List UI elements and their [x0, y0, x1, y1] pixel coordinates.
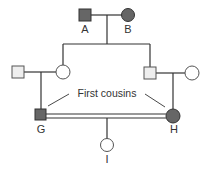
individual-right-spouse-female-icon [185, 66, 199, 80]
individual-g-affected-male-icon [35, 109, 46, 120]
label-h: H [170, 123, 178, 135]
individual-i-female-icon [101, 139, 114, 152]
individual-b-affected-female-icon [122, 9, 135, 22]
label-i: I [105, 153, 108, 165]
first-cousins-annotation: First cousins [78, 87, 137, 99]
label-a: A [81, 23, 89, 35]
annotation-pointer-g [48, 94, 69, 106]
label-g: G [37, 123, 46, 135]
label-b: B [124, 23, 131, 35]
pedigree-diagram: A B G H I First cousins [0, 0, 209, 174]
individual-left-spouse-male-icon [12, 66, 24, 78]
annotation-pointer-h [145, 94, 165, 107]
individual-h-affected-female-icon [166, 109, 180, 123]
individual-right-child-male-icon [144, 67, 156, 79]
individual-a-affected-male-icon [79, 9, 91, 21]
individual-left-child-female-icon [56, 65, 70, 79]
